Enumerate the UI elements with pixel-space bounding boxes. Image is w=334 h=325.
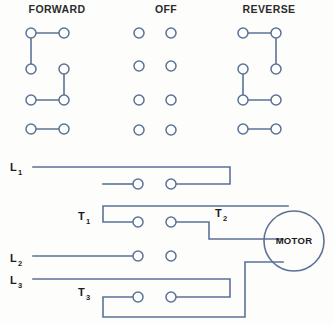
wire-t3-run xyxy=(103,262,283,317)
circuit-contact-t3-right[interactable] xyxy=(166,292,176,302)
wire-l3-run xyxy=(33,279,230,297)
terminal-t2-subscript: 2 xyxy=(223,214,227,223)
terminal-t3-subscript: 3 xyxy=(86,293,90,302)
circuit-contact-l1-right[interactable] xyxy=(166,179,176,189)
forward-title: FORWARD xyxy=(29,3,86,15)
forward-contact-2l[interactable] xyxy=(26,64,36,74)
off-contact-1l[interactable] xyxy=(134,28,144,38)
terminal-label-t2: T 2 xyxy=(215,207,227,223)
off-contact-2l[interactable] xyxy=(134,61,144,71)
switch-position-forward: FORWARD xyxy=(26,3,85,134)
switch-position-off: OFF xyxy=(134,3,177,135)
diagram-page: FORWARD OFF xyxy=(0,0,334,325)
forward-contact-3l[interactable] xyxy=(26,95,36,105)
reverse-contact-4l[interactable] xyxy=(238,124,248,134)
terminal-t3-letter: T xyxy=(78,286,85,298)
reverse-title: REVERSE xyxy=(243,3,296,15)
wiring-diagram-canvas: FORWARD OFF xyxy=(0,0,334,325)
forward-contact-4l[interactable] xyxy=(26,124,36,134)
terminal-l1-subscript: 1 xyxy=(18,168,22,177)
wire-l1-run xyxy=(33,167,230,184)
terminal-label-l2: L 2 xyxy=(10,252,22,268)
terminal-label-l3: L 3 xyxy=(10,274,22,290)
reverse-contact-4r[interactable] xyxy=(271,124,281,134)
forward-contact-4r[interactable] xyxy=(59,124,69,134)
forward-jumpers xyxy=(31,33,64,129)
off-contact-4l[interactable] xyxy=(134,125,144,135)
off-contact-3l[interactable] xyxy=(134,95,144,105)
terminal-t1-letter: T xyxy=(78,210,85,222)
circuit-contact-l2-left[interactable] xyxy=(133,251,143,261)
terminal-l2-subscript: 2 xyxy=(18,259,22,268)
terminal-label-l1: L 1 xyxy=(10,161,22,177)
circuit-contact-l1-left[interactable] xyxy=(133,179,143,189)
wire-t2-run xyxy=(176,222,283,239)
switch-position-reverse: REVERSE xyxy=(238,3,295,134)
reverse-jumpers xyxy=(243,33,276,129)
forward-contact-1l[interactable] xyxy=(26,28,36,38)
circuit-contact-t1-left[interactable] xyxy=(133,217,143,227)
circuit-contact-l2-right[interactable] xyxy=(166,251,176,261)
forward-contact-3r[interactable] xyxy=(59,95,69,105)
off-contact-3r[interactable] xyxy=(166,95,176,105)
forward-contact-1r[interactable] xyxy=(59,28,69,38)
reverse-contact-2l[interactable] xyxy=(238,64,248,74)
forward-contact-2r[interactable] xyxy=(59,64,69,74)
off-contact-2r[interactable] xyxy=(166,61,176,71)
reverse-contact-3r[interactable] xyxy=(271,95,281,105)
terminal-t2-letter: T xyxy=(215,207,222,219)
terminal-l1-letter: L xyxy=(10,161,17,173)
reverse-contact-1l[interactable] xyxy=(238,28,248,38)
off-contact-4r[interactable] xyxy=(166,125,176,135)
off-contact-1r[interactable] xyxy=(166,28,176,38)
reverse-contact-1r[interactable] xyxy=(271,28,281,38)
circuit-contact-t1-right[interactable] xyxy=(166,217,176,227)
terminal-l3-subscript: 3 xyxy=(18,281,22,290)
motor-circuit: MOTOR L 1 T 1 T 2 L 2 L 3 xyxy=(10,161,324,317)
motor-label: MOTOR xyxy=(276,235,313,246)
wire-t1-run xyxy=(103,206,288,222)
terminal-label-t3: T 3 xyxy=(78,286,90,302)
terminal-t1-subscript: 1 xyxy=(86,217,90,226)
terminal-l2-letter: L xyxy=(10,252,17,264)
reverse-contact-3l[interactable] xyxy=(238,95,248,105)
terminal-label-t1: T 1 xyxy=(78,210,90,226)
off-title: OFF xyxy=(155,3,177,15)
terminal-l3-letter: L xyxy=(10,274,17,286)
circuit-contact-t3-left[interactable] xyxy=(133,292,143,302)
reverse-contact-2r[interactable] xyxy=(271,64,281,74)
